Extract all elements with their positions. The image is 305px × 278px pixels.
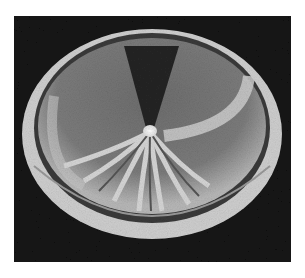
discharge-illustration [14, 16, 291, 262]
bright-core [143, 125, 157, 137]
illustration-frame [14, 16, 291, 262]
